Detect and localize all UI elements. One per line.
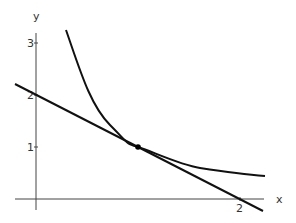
chart: y x 3 2 1 2 xyxy=(0,0,296,223)
ytick-label-3: 3 xyxy=(27,37,34,50)
x-axis-label: x xyxy=(276,193,283,206)
ytick-label-1: 1 xyxy=(27,141,34,154)
y-axis-label: y xyxy=(33,10,40,23)
xtick-label-2: 2 xyxy=(236,202,243,215)
curve-series xyxy=(66,30,265,176)
tangency-point xyxy=(135,144,141,150)
